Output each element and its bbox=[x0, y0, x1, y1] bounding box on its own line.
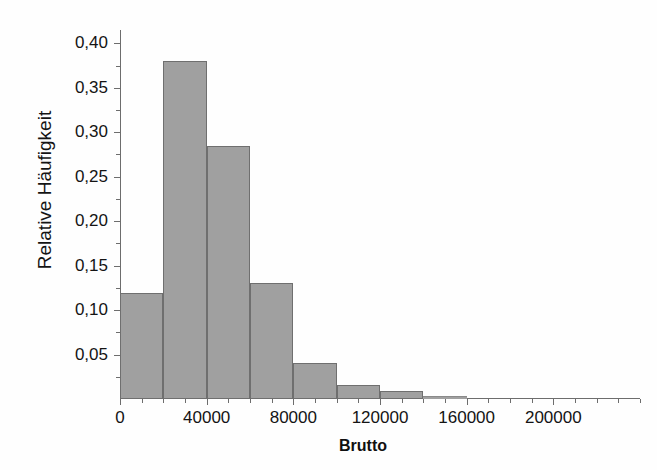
x-tick-label: 0 bbox=[115, 408, 124, 428]
x-tick-minor bbox=[423, 399, 424, 403]
x-tick-minor bbox=[445, 399, 446, 403]
y-tick-label: 0,30 bbox=[52, 122, 108, 142]
x-tick-minor bbox=[337, 399, 338, 403]
histogram-bar bbox=[250, 283, 293, 399]
y-tick-major bbox=[114, 88, 120, 89]
x-tick-label: 200000 bbox=[525, 408, 582, 428]
x-tick-minor bbox=[402, 399, 403, 403]
y-tick-minor bbox=[116, 110, 120, 111]
x-tick-minor bbox=[315, 399, 316, 403]
x-tick-major bbox=[207, 399, 208, 405]
histogram-bar bbox=[337, 385, 380, 399]
x-axis-title: Brutto bbox=[133, 437, 593, 455]
x-tick-minor bbox=[142, 399, 143, 403]
x-tick-major bbox=[553, 399, 554, 405]
y-tick-label: 0,25 bbox=[52, 167, 108, 187]
y-tick-label: 0,05 bbox=[52, 345, 108, 365]
y-tick-minor bbox=[116, 199, 120, 200]
x-tick-major bbox=[120, 399, 121, 405]
histogram-bar bbox=[293, 363, 336, 399]
x-tick-major bbox=[467, 399, 468, 405]
x-tick-minor bbox=[163, 399, 164, 403]
y-tick-label: 0,35 bbox=[52, 78, 108, 98]
x-tick-minor bbox=[228, 399, 229, 403]
y-tick-label: 0,40 bbox=[52, 33, 108, 53]
histogram-bar bbox=[120, 293, 163, 399]
y-tick-minor bbox=[116, 243, 120, 244]
x-tick-minor bbox=[358, 399, 359, 403]
y-tick-minor bbox=[116, 66, 120, 67]
y-tick-label: 0,10 bbox=[52, 300, 108, 320]
histogram-bar bbox=[207, 146, 250, 399]
x-tick-label: 160000 bbox=[438, 408, 495, 428]
x-tick-label: 120000 bbox=[352, 408, 409, 428]
histogram-bar bbox=[423, 396, 466, 399]
histogram-bar bbox=[380, 391, 423, 399]
x-tick-major bbox=[293, 399, 294, 405]
x-tick-major bbox=[380, 399, 381, 405]
x-tick-minor bbox=[640, 399, 641, 403]
x-tick-label: 40000 bbox=[183, 408, 230, 428]
x-tick-minor bbox=[250, 399, 251, 403]
y-axis-title: Relative Häufigkeit bbox=[30, 0, 60, 390]
x-tick-minor bbox=[532, 399, 533, 403]
histogram-bar bbox=[163, 61, 206, 399]
y-tick-label: 0,20 bbox=[52, 211, 108, 231]
y-tick-minor bbox=[116, 288, 120, 289]
x-tick-minor bbox=[618, 399, 619, 403]
y-tick-label: 0,15 bbox=[52, 256, 108, 276]
y-tick-major bbox=[114, 177, 120, 178]
y-tick-minor bbox=[116, 154, 120, 155]
x-tick-minor bbox=[272, 399, 273, 403]
x-tick-minor bbox=[575, 399, 576, 403]
y-tick-major bbox=[114, 266, 120, 267]
x-tick-minor bbox=[510, 399, 511, 403]
plot-area: 0,050,100,150,200,250,300,350,40 0400008… bbox=[120, 30, 640, 399]
y-tick-major bbox=[114, 221, 120, 222]
x-tick-minor bbox=[488, 399, 489, 403]
x-tick-minor bbox=[597, 399, 598, 403]
y-tick-major bbox=[114, 43, 120, 44]
y-tick-major bbox=[114, 132, 120, 133]
histogram-chart: Relative Häufigkeit 0,050,100,150,200,25… bbox=[0, 0, 657, 470]
x-tick-label: 80000 bbox=[270, 408, 317, 428]
x-tick-minor bbox=[185, 399, 186, 403]
